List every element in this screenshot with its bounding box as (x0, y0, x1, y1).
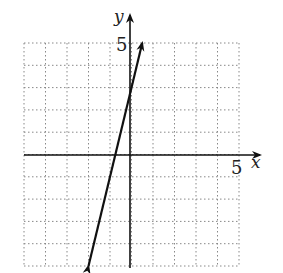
y-axis-label: y (113, 6, 124, 26)
x-tick-label: 5 (231, 157, 242, 178)
coordinate-plane: y 5 5 x (0, 0, 283, 273)
y-tick-label: 5 (116, 34, 127, 55)
x-axis-label: x (251, 152, 261, 172)
